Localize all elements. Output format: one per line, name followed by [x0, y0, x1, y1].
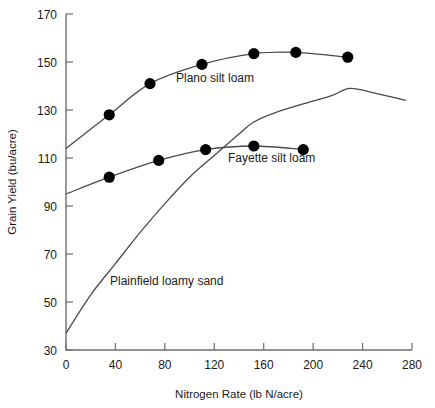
series-line-2: [66, 88, 406, 333]
x-tick-label: 160: [254, 358, 274, 372]
series-annotation-plainfield: Plainfield loamy sand: [110, 274, 223, 288]
y-axis-title: Grain Yield (bu/acre): [6, 129, 18, 235]
series-annotation-fayette: Fayette silt loam: [228, 151, 315, 165]
data-point-marker: [153, 155, 164, 166]
y-tick-label: 130: [37, 104, 57, 118]
chart-figure: 3050709011013015017004080120160200240280…: [0, 0, 435, 408]
data-point-marker: [342, 52, 353, 63]
y-tick-label: 30: [44, 344, 58, 358]
x-tick-label: 280: [402, 358, 422, 372]
data-point-marker: [104, 172, 115, 183]
y-tick-label: 150: [37, 56, 57, 70]
y-tick-label: 70: [44, 248, 58, 262]
data-point-marker: [248, 48, 259, 59]
data-point-marker: [290, 47, 301, 58]
y-tick-label: 90: [44, 200, 58, 214]
y-tick-label: 110: [38, 152, 57, 166]
data-point-marker: [200, 144, 211, 155]
data-point-marker: [144, 78, 155, 89]
series-annotation-plano: Plano silt loam: [176, 71, 254, 85]
x-tick-label: 40: [109, 358, 123, 372]
data-point-marker: [196, 59, 207, 70]
chart-canvas: 3050709011013015017004080120160200240280…: [0, 0, 435, 408]
x-tick-label: 200: [303, 358, 323, 372]
x-tick-label: 120: [204, 358, 224, 372]
y-tick-label: 50: [44, 296, 58, 310]
x-tick-label: 240: [353, 358, 373, 372]
data-point-marker: [104, 109, 115, 120]
x-axis-title: Nitrogen Rate (lb N/acre): [175, 388, 303, 400]
x-tick-label: 0: [63, 358, 70, 372]
axis-spines: [66, 14, 412, 350]
x-tick-label: 80: [158, 358, 172, 372]
y-tick-label: 170: [37, 8, 57, 22]
data-point-marker: [248, 140, 259, 151]
